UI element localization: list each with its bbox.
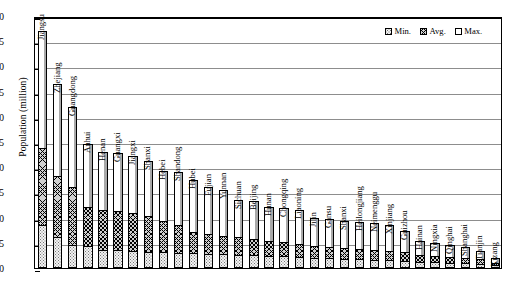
bar-segment-min (264, 256, 273, 268)
category-label: Sichuan (233, 182, 243, 210)
category-label: Liaoning (293, 188, 303, 219)
bar-group[interactable] (98, 152, 107, 268)
category-label: Xizang (489, 243, 499, 268)
bar-group[interactable] (144, 161, 153, 268)
bar-group[interactable] (174, 172, 183, 268)
bar-segment-min (325, 258, 334, 268)
y-axis-tick-label: 5 (0, 239, 4, 249)
y-axis-tick-label: 35 (0, 88, 4, 98)
bar-group[interactable] (279, 208, 288, 268)
category-label: Fujian (203, 174, 213, 196)
legend-item-min[interactable]: Min. (385, 26, 411, 36)
category-label: Anhui (82, 132, 92, 153)
bar-segment-min (53, 237, 62, 268)
bar-segment-min (249, 255, 258, 268)
bar-segment-min (68, 245, 77, 268)
category-label: Shandong (172, 146, 182, 180)
category-label: Shanxi (142, 146, 152, 170)
bar-segment-min (159, 252, 168, 268)
bar-segment-min (430, 262, 439, 268)
category-label: Beijing (248, 185, 258, 210)
bar-segment-min (144, 252, 153, 268)
y-axis-tick-label: 10 (0, 214, 4, 224)
bar-group[interactable] (189, 180, 198, 268)
y-axis-tick-label: 25 (0, 138, 4, 148)
bar-segment-min (174, 253, 183, 268)
y-axis-tick-label: 40 (0, 62, 4, 72)
category-label: Shanxi (338, 206, 348, 230)
bar-group[interactable] (219, 190, 228, 268)
category-label: Guangxi (112, 132, 122, 162)
bar-segment-min (38, 225, 47, 268)
category-label: Ningxia (429, 225, 439, 253)
category-label: Xinjiang (384, 204, 394, 234)
bar-segment-min (128, 251, 137, 268)
bar-group[interactable] (38, 31, 47, 268)
category-label: Neimenggu (369, 192, 379, 232)
bar-group[interactable] (159, 171, 168, 268)
category-label: Jilin (308, 212, 318, 227)
category-label: Tianjin (474, 236, 484, 261)
category-label: Hainan (414, 225, 424, 250)
legend-swatch-avg-icon (420, 28, 427, 35)
bar-segment-min (234, 255, 243, 268)
y-axis-tick-label: 30 (0, 113, 4, 123)
category-label: Jiangsu (36, 14, 46, 40)
bar-group[interactable] (204, 187, 213, 268)
category-label: Yunnan (218, 173, 228, 199)
bar-group[interactable] (83, 144, 92, 268)
category-label: Qinghai (444, 226, 454, 254)
y-axis-tick-label: 45 (0, 37, 4, 47)
category-label: Hubei (187, 168, 197, 189)
y-axis-tick-label: 50 (0, 12, 4, 22)
bar-segment-min (98, 250, 107, 268)
bar-segment-min (385, 260, 394, 268)
category-label: Chongqing (278, 179, 288, 217)
bar-segment-min (295, 257, 304, 268)
y-axis-tick-label: 20 (0, 163, 4, 173)
legend-item-max[interactable]: Max. (455, 26, 482, 36)
plot-area: JiangsuZhejiangGuangdongAnhuiHenanGuangx… (34, 17, 502, 269)
category-label: Heilongjiang (354, 186, 364, 231)
bar-group[interactable] (234, 200, 243, 268)
legend-label-min: Min. (395, 26, 411, 36)
legend: Min. Avg. Max. (385, 26, 482, 36)
bar-segment-min (310, 258, 319, 268)
legend-item-avg[interactable]: Avg. (420, 26, 446, 36)
category-label: Henan (97, 139, 107, 161)
bar-segment-min (219, 254, 228, 268)
category-label: Hebei (157, 160, 167, 181)
category-label: Guizhou (399, 211, 409, 241)
bar-group[interactable] (113, 153, 122, 268)
y-axis-tick-label: 15 (0, 188, 4, 198)
bar-group[interactable] (264, 207, 273, 268)
bar-segment-min (340, 259, 349, 268)
category-label: Zhejiang (52, 62, 62, 93)
legend-label-avg: Avg. (429, 26, 445, 36)
y-axis-title: Population (million) (18, 42, 28, 192)
population-bar-chart: Population (million) 0510152025303540455… (0, 0, 510, 281)
bar-group[interactable] (128, 156, 137, 268)
bar-segment-min (415, 262, 424, 268)
bar-segment-min (400, 261, 409, 268)
bar-group[interactable] (249, 201, 258, 268)
category-label: Guangdong (67, 76, 77, 116)
plot-inner: JiangsuZhejiangGuangdongAnhuiHenanGuangx… (35, 18, 501, 268)
bar-segment-min (279, 256, 288, 268)
bar-group[interactable] (68, 107, 77, 268)
category-label: Hunan (263, 193, 273, 216)
bar-segment-min (204, 254, 213, 268)
bar-segment-min (476, 264, 485, 268)
bar-segment-min (83, 246, 92, 268)
bar-segment-min (355, 259, 364, 268)
category-label: Jiangxi (127, 140, 137, 165)
category-label: Gansu (323, 206, 333, 228)
legend-swatch-max-icon (455, 28, 462, 35)
category-label: Shanghai (459, 224, 469, 256)
bar-series-group: JiangsuZhejiangGuangdongAnhuiHenanGuangx… (35, 18, 501, 268)
legend-label-max: Max. (464, 26, 482, 36)
bar-group[interactable] (53, 84, 62, 268)
bar-segment-min (189, 253, 198, 268)
legend-swatch-min-icon (385, 28, 392, 35)
bar-segment-min (113, 250, 122, 268)
